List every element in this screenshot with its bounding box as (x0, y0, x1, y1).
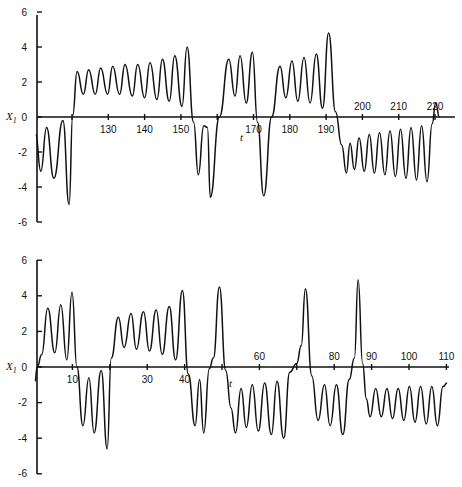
y-tick-label: -2 (18, 397, 27, 408)
x-tick-label: 100 (401, 351, 418, 362)
y-tick-label: 4 (21, 42, 27, 53)
bottom-x-axis-label: t (229, 377, 232, 389)
y-tick-label: -2 (18, 147, 27, 158)
y-tick-label: 0 (21, 112, 27, 123)
y-tick-label: 6 (21, 255, 27, 266)
x1-time-series-curve (36, 33, 440, 205)
x-tick-label: 180 (281, 124, 298, 135)
top-y-axis-label: X1 (6, 110, 17, 125)
x-tick-label: 140 (136, 124, 153, 135)
y-tick-label: 2 (21, 77, 27, 88)
top-x-axis-label: t (240, 131, 243, 143)
y-tick-label: 0 (21, 362, 27, 373)
x-tick-label: 130 (100, 124, 117, 135)
top-chart-panel: 6420-2-4-6130140150170180190200210220 (18, 7, 455, 228)
x-tick-label: 30 (142, 374, 154, 385)
y-tick-label: 2 (21, 326, 27, 337)
y-tick-label: -4 (18, 182, 27, 193)
y-tick-label: 4 (21, 290, 27, 301)
x-tick-label: 150 (173, 124, 190, 135)
chart-canvas: 6420-2-4-6130140150170180190200210220 64… (0, 0, 462, 487)
x1-time-series-curve (35, 280, 447, 449)
x-tick-label: 60 (254, 351, 266, 362)
x-tick-label: 80 (329, 351, 341, 362)
top-y-axis-label-main: X (6, 110, 13, 122)
x-tick-label: 10 (67, 374, 79, 385)
y-tick-label: -4 (18, 433, 27, 444)
x-tick-label: 190 (318, 124, 335, 135)
x-tick-label: 110 (438, 351, 454, 362)
x-tick-label: 200 (354, 101, 371, 112)
x-tick-label: 90 (366, 351, 378, 362)
y-tick-label: -6 (18, 217, 27, 228)
y-tick-label: 6 (21, 7, 27, 18)
x-tick-label: 210 (390, 101, 407, 112)
y-tick-label: -6 (18, 468, 27, 479)
bottom-y-axis-label: X1 (6, 360, 17, 375)
bottom-chart-panel: 6420-2-4-6103040608090100110 (18, 255, 455, 480)
top-y-axis-label-sub: 1 (13, 116, 17, 125)
bottom-y-axis-label-sub: 1 (13, 366, 17, 375)
bottom-y-axis-label-main: X (6, 360, 13, 372)
